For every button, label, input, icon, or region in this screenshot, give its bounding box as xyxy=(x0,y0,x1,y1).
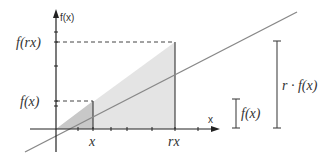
large-bracket xyxy=(273,41,281,128)
small-shaded-region xyxy=(56,101,93,129)
fx-label: f(x) xyxy=(20,94,40,110)
y-axis-label: f(x) xyxy=(60,12,74,23)
x-axis-label: x xyxy=(208,114,213,125)
small-bracket-label: f(x) xyxy=(241,106,261,122)
small-bracket xyxy=(232,99,240,128)
rx-point-label: rx xyxy=(168,134,180,149)
linear-scaling-diagram: f(x) x f(rx) f(x) x rx f(x) r · f(x) xyxy=(0,0,335,157)
frx-label: f(rx) xyxy=(16,35,41,51)
y-axis-arrow-icon xyxy=(53,9,59,18)
large-bracket-label: r · f(x) xyxy=(282,78,318,94)
x-point-label: x xyxy=(88,134,96,149)
function-line xyxy=(25,12,297,152)
x-axis-arrow-icon xyxy=(211,126,220,132)
